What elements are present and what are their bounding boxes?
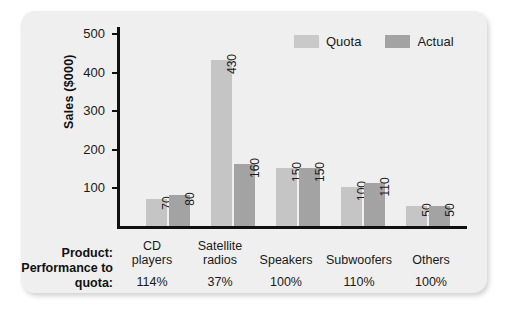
y-axis-title: Sales ($000) <box>62 54 76 129</box>
bar-speakers-quota[interactable]: 150 <box>276 168 297 226</box>
bar-others-actual[interactable]: 50 <box>429 206 450 226</box>
x-axis-line <box>117 226 467 229</box>
y-tick-300: 300 <box>112 110 117 112</box>
y-tick-200: 200 <box>112 149 117 151</box>
bar-cd-players-quota[interactable]: 70 <box>146 199 167 226</box>
category-table: Product: Performance to quota: CD player… <box>21 233 487 291</box>
y-tick-500: 500 <box>112 33 117 35</box>
bar-value-label: 110 <box>375 177 396 196</box>
row-label-product: Product: <box>21 246 113 261</box>
row-label-performance-line2: quota: <box>21 276 113 291</box>
screenshot-root: Sales ($000) Quota Actual 500 400 300 <box>0 0 512 314</box>
category-line1: CD <box>117 239 187 253</box>
performance-value-subwoofers: 110% <box>317 275 401 289</box>
category-label-others: Others <box>399 253 463 267</box>
bar-value-label: 50 <box>440 203 461 216</box>
bar-value-label: 430 <box>222 54 243 74</box>
y-tick-100: 100 <box>112 187 117 189</box>
plot-area: 500 400 300 200 100 70 80 430 <box>117 27 467 229</box>
bar-speakers-actual[interactable]: 150 <box>299 168 320 226</box>
bar-value-label: 160 <box>245 158 266 178</box>
bar-value-label: 80 <box>180 192 201 205</box>
bar-satellite-radios-actual[interactable]: 160 <box>234 164 255 226</box>
performance-value-satellite-radios: 37% <box>183 275 257 289</box>
row-label-performance: Performance to quota: <box>21 261 113 291</box>
performance-value-others: 100% <box>399 275 463 289</box>
category-line1: Speakers <box>249 253 323 267</box>
category-line1: Others <box>399 253 463 267</box>
performance-value-cd-players: 114% <box>117 275 187 289</box>
chart-card: Sales ($000) Quota Actual 500 400 300 <box>21 11 487 293</box>
performance-value-speakers: 100% <box>249 275 323 289</box>
y-tick-400: 400 <box>112 72 117 74</box>
bar-cd-players-actual[interactable]: 80 <box>169 195 190 226</box>
category-label-speakers: Speakers <box>249 253 323 267</box>
bar-subwoofers-actual[interactable]: 110 <box>364 183 385 226</box>
category-label-subwoofers: Subwoofers <box>317 253 401 267</box>
bar-satellite-radios-quota[interactable]: 430 <box>211 60 232 226</box>
y-axis-line <box>117 27 120 229</box>
category-line2: radios <box>183 253 257 267</box>
category-line1: Subwoofers <box>317 253 401 267</box>
bar-others-quota[interactable]: 50 <box>406 206 427 226</box>
bar-subwoofers-quota[interactable]: 100 <box>341 187 362 226</box>
category-line2: players <box>117 253 187 267</box>
category-label-satellite-radios: Satellite radios <box>183 239 257 267</box>
category-label-cd-players: CD players <box>117 239 187 267</box>
bar-value-label: 150 <box>310 162 331 182</box>
row-label-performance-line1: Performance to <box>21 261 113 276</box>
category-line1: Satellite <box>183 239 257 253</box>
